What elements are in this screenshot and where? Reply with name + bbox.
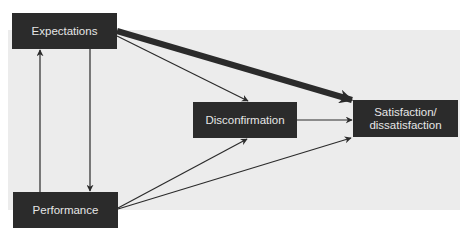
node-performance: Performance: [13, 192, 118, 228]
node-expectations: Expectations: [12, 13, 117, 49]
edge-expectations-to-satisfaction: [117, 31, 352, 100]
node-satisfaction-label-line1: Satisfaction/: [374, 106, 437, 119]
node-disconfirmation-label: Disconfirmation: [205, 114, 284, 127]
node-performance-label: Performance: [33, 204, 99, 217]
node-expectations-label: Expectations: [32, 25, 98, 38]
node-satisfaction: Satisfaction/ dissatisfaction: [353, 100, 458, 137]
node-satisfaction-label-line2: dissatisfaction: [369, 119, 441, 132]
edge-performance-to-satisfaction: [118, 138, 351, 209]
edge-performance-to-disconfirmation: [118, 139, 247, 208]
node-disconfirmation: Disconfirmation: [193, 102, 297, 138]
edge-expectations-to-disconfirmation: [117, 36, 248, 101]
